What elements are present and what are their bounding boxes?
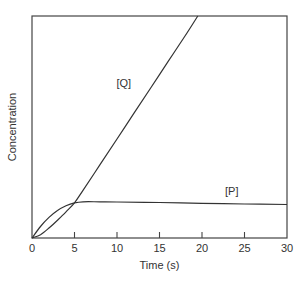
x-tick-label: 10 xyxy=(111,242,123,254)
series-label-q: [Q] xyxy=(116,77,131,89)
x-tick-label: 30 xyxy=(281,242,293,254)
y-axis-label: Concentration xyxy=(6,93,18,162)
x-tick-label: 5 xyxy=(71,242,77,254)
x-tick-label: 0 xyxy=(29,242,35,254)
series-line-q xyxy=(32,16,198,238)
x-tick-label: 25 xyxy=(238,242,250,254)
x-tick-label: 20 xyxy=(196,242,208,254)
x-tick-label: 15 xyxy=(153,242,165,254)
series-labels: [Q][P] xyxy=(116,77,238,197)
concentration-time-chart: 051015202530 [Q][P] Time (s) Concentrati… xyxy=(0,0,306,281)
x-axis-label: Time (s) xyxy=(140,259,180,271)
series-lines xyxy=(32,16,287,238)
x-axis-ticks: 051015202530 xyxy=(29,232,293,254)
series-label-p: [P] xyxy=(225,185,238,197)
